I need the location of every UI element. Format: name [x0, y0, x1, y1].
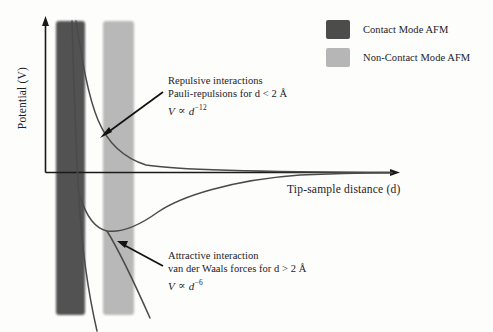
attractive-annotation: Attractive interaction van der Waals for…: [168, 249, 306, 293]
repulsive-annotation: Repulsive interactions Pauli-repulsions …: [168, 74, 287, 118]
x-axis-label: Tip-sample distance (d): [287, 183, 400, 195]
legend-swatch-noncontact: [326, 48, 350, 67]
attractive-annotation-formula: V∝d−6: [168, 276, 306, 293]
attractive-annotation-line2: van der Waals forces for d > 2 Å: [168, 262, 306, 275]
y-axis-label: Potential (V): [16, 43, 28, 153]
legend-label-noncontact: Non-Contact Mode AFM: [363, 52, 470, 63]
legend-swatch-contact: [326, 20, 350, 39]
repulsive-annotation-arrow: [100, 92, 163, 138]
legend-item-contact: Contact Mode AFM: [326, 18, 470, 40]
repulsive-annotation-line2: Pauli-repulsions for d < 2 Å: [168, 87, 287, 100]
y-axis: [42, 16, 49, 173]
repulsive-formula-variable: V: [168, 104, 175, 116]
attractive-formula-variable: V: [168, 279, 175, 291]
legend-label-contact: Contact Mode AFM: [363, 24, 448, 35]
attractive-curve: [80, 173, 392, 232]
proportional-icon: ∝: [175, 279, 189, 291]
attractive-annotation-line1: Attractive interaction: [168, 249, 306, 262]
legend-item-noncontact: Non-Contact Mode AFM: [326, 46, 470, 68]
afm-potential-diagram: Potential (V) Tip-sample distance (d) Re…: [0, 0, 493, 332]
legend: Contact Mode AFM Non-Contact Mode AFM: [326, 18, 470, 74]
attractive-curve-tail: [107, 231, 150, 318]
repulsive-annotation-formula: V∝d−12: [168, 101, 287, 118]
repulsive-formula-exponent: −12: [195, 103, 207, 112]
repulsive-annotation-line1: Repulsive interactions: [168, 74, 287, 87]
attractive-formula-exponent: −6: [195, 278, 203, 287]
proportional-icon: ∝: [175, 104, 189, 116]
